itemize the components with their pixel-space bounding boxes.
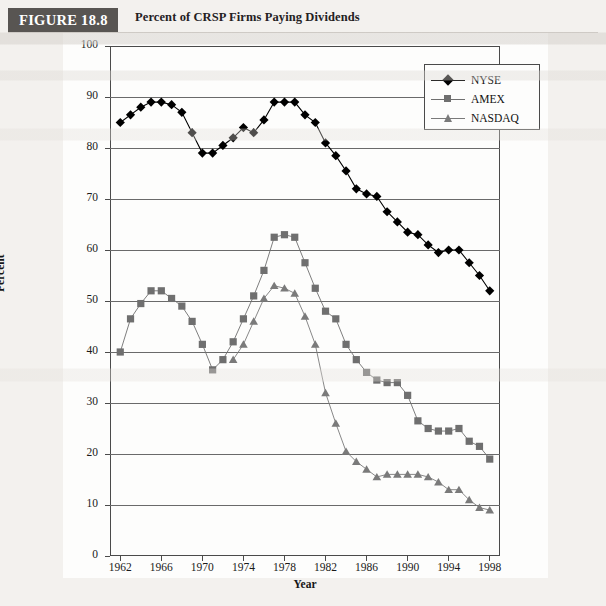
data-point-marker [189, 318, 196, 325]
data-point-marker [167, 100, 176, 109]
data-point-marker [290, 289, 299, 296]
data-point-marker [239, 340, 248, 347]
data-point-marker [208, 149, 217, 158]
data-point-marker [434, 248, 443, 257]
data-point-marker [229, 356, 238, 363]
data-point-marker [270, 98, 279, 107]
data-point-marker [434, 478, 443, 485]
data-point-marker [270, 282, 279, 289]
data-point-marker [250, 292, 257, 299]
data-point-marker [209, 366, 216, 373]
data-point-marker [218, 141, 227, 150]
legend-item-nyse[interactable]: NYSE [431, 71, 501, 89]
data-point-marker [281, 231, 288, 238]
data-point-marker [146, 98, 155, 107]
data-point-marker [384, 379, 391, 386]
data-point-marker [332, 315, 339, 322]
data-point-marker [353, 356, 360, 363]
data-point-marker [301, 259, 308, 266]
series-line [120, 235, 489, 459]
data-point-marker [127, 315, 134, 322]
data-point-marker [157, 98, 166, 107]
data-point-marker [342, 341, 349, 348]
data-point-marker [466, 438, 473, 445]
data-point-marker [485, 286, 494, 295]
data-point-marker [240, 315, 247, 322]
legend-label: NASDAQ [471, 112, 519, 124]
data-point-marker [435, 427, 442, 434]
data-point-marker [260, 294, 269, 301]
data-point-marker [414, 417, 421, 424]
data-point-marker [271, 234, 278, 241]
data-point-marker [301, 312, 310, 319]
data-point-marker [177, 108, 186, 117]
data-point-marker [362, 189, 371, 198]
chart-canvas: 0102030405060708090100 19621966197019741… [0, 0, 606, 606]
data-point-marker [137, 300, 144, 307]
data-point-marker [126, 110, 135, 119]
legend-label: NYSE [471, 74, 501, 86]
data-point-marker [147, 287, 154, 294]
triangle-icon [431, 111, 465, 125]
data-point-marker [230, 338, 237, 345]
data-point-marker [260, 267, 267, 274]
data-point-marker [444, 245, 453, 254]
data-point-marker [116, 118, 125, 127]
data-point-marker [352, 184, 361, 193]
series-line [233, 286, 490, 510]
data-point-marker [331, 419, 340, 426]
legend-item-amex[interactable]: AMEX [431, 90, 505, 108]
data-point-marker [280, 98, 289, 107]
data-point-marker [219, 356, 226, 363]
data-point-marker [373, 376, 380, 383]
data-point-marker [363, 369, 370, 376]
data-point-marker [117, 348, 124, 355]
data-point-marker [136, 103, 145, 112]
legend-item-nasdaq[interactable]: NASDAQ [431, 109, 519, 127]
data-point-marker [312, 285, 319, 292]
data-point-marker [249, 317, 258, 324]
data-point-marker [404, 392, 411, 399]
data-point-marker [321, 389, 330, 396]
data-point-marker [291, 234, 298, 241]
data-point-marker [178, 303, 185, 310]
data-point-marker [199, 341, 206, 348]
series-amex [117, 231, 494, 463]
data-point-marker [476, 443, 483, 450]
diamond-icon [431, 73, 465, 87]
data-point-marker [425, 425, 432, 432]
data-point-marker [341, 166, 350, 175]
data-point-marker [158, 287, 165, 294]
data-point-marker [342, 447, 351, 454]
square-icon [431, 92, 465, 106]
data-point-marker [394, 379, 401, 386]
data-point-marker [486, 456, 493, 463]
data-point-marker [188, 128, 197, 137]
data-point-marker [311, 118, 320, 127]
data-point-marker [372, 192, 381, 201]
data-point-marker [455, 425, 462, 432]
data-point-marker [362, 465, 371, 472]
data-point-marker [445, 427, 452, 434]
series-nasdaq [229, 282, 494, 514]
chart-legend: NYSEAMEXNASDAQ [424, 64, 540, 130]
legend-label: AMEX [471, 93, 505, 105]
data-point-marker [322, 308, 329, 315]
data-point-marker [311, 340, 320, 347]
data-point-marker [168, 295, 175, 302]
data-point-marker [475, 503, 484, 510]
data-point-marker [198, 149, 207, 158]
